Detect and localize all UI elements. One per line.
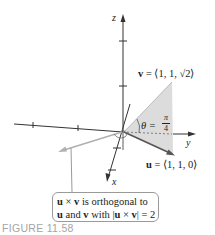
z-axis-label: z	[112, 13, 116, 23]
angle-denominator: 4	[162, 124, 170, 133]
x-axis-label: x	[112, 177, 116, 187]
y-arrowhead	[188, 132, 196, 137]
vector-u-cross-v	[64, 132, 122, 150]
u-components: = ⟨1, 1, 0⟩	[154, 159, 197, 170]
x-arrowhead	[106, 173, 111, 182]
cross-arrowhead	[58, 147, 67, 153]
callout-line-1: u × v is orthogonal to	[57, 195, 158, 208]
angle-label: θ =	[141, 121, 156, 132]
vector-u-label: u = ⟨1, 1, 0⟩	[146, 160, 197, 171]
z-arrowhead	[121, 14, 126, 22]
callout-line-2: u and v with |u × v| = 2	[57, 208, 158, 221]
u-symbol: u	[146, 159, 152, 170]
callout-leader	[71, 148, 72, 192]
v-symbol: v	[138, 68, 143, 79]
vector-v-label: v = ⟨1, 1, √2⟩	[138, 69, 194, 80]
theta-symbol: θ	[141, 120, 146, 131]
v-components: = ⟨1, 1, √2⟩	[146, 68, 195, 79]
figure-label: FIGURE 11.58	[2, 222, 74, 234]
x-axis	[108, 104, 130, 178]
y-axis-negative	[14, 124, 123, 132]
y-axis-label: y	[186, 138, 190, 148]
angle-fraction: π 4	[162, 114, 170, 133]
callout-box: u × v is orthogonal to u and v with |u ×…	[52, 192, 159, 222]
angle-numerator: π	[162, 114, 170, 124]
